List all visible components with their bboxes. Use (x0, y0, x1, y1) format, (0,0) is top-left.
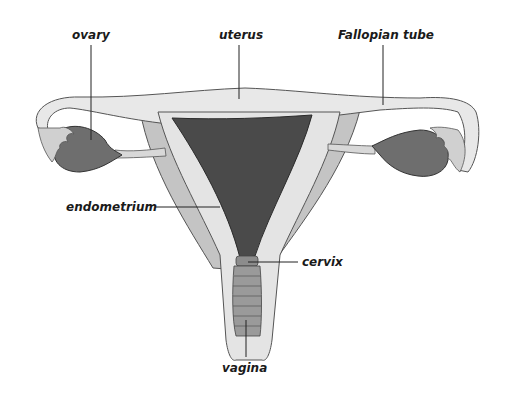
label-ovary: ovary (72, 28, 110, 42)
vagina-shape (233, 266, 262, 336)
label-cervix: cervix (302, 255, 343, 269)
label-endometrium: endometrium (66, 200, 157, 214)
left-ovarian-ligament (115, 148, 166, 158)
label-vagina: vagina (222, 361, 267, 375)
reproductive-system-illustration (0, 0, 511, 393)
label-fallopian-tube: Fallopian tube (338, 28, 434, 42)
cervix-shape (236, 256, 258, 266)
label-uterus: uterus (219, 28, 263, 42)
